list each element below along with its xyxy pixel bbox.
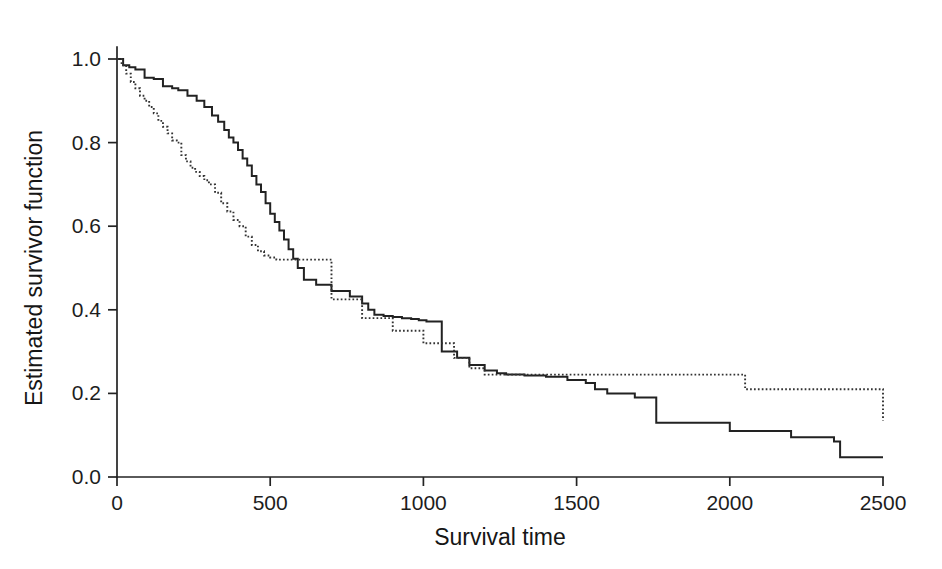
- y-tick-label: 0.6: [72, 214, 101, 237]
- curves-group: [117, 59, 883, 457]
- y-tick-label: 0.4: [72, 298, 102, 321]
- y-tick-label: 0.0: [72, 465, 101, 488]
- y-tick-label: 1.0: [72, 47, 101, 70]
- x-tick-label: 1500: [553, 491, 600, 514]
- x-axis-title: Survival time: [434, 524, 566, 550]
- axes-group: [117, 47, 883, 477]
- x-tick-label: 2500: [860, 491, 907, 514]
- dotted-curve: [117, 59, 883, 421]
- y-tick-label: 0.2: [72, 381, 101, 404]
- tick-labels-group: 0.00.20.40.60.81.005001000150020002500: [72, 47, 907, 514]
- x-tick-label: 0: [111, 491, 123, 514]
- y-axis-title: Estimated survivor function: [21, 130, 47, 406]
- y-tick-label: 0.8: [72, 131, 101, 154]
- x-tick-label: 500: [253, 491, 288, 514]
- x-tick-label: 1000: [400, 491, 447, 514]
- solid-curve: [117, 59, 883, 457]
- plot-canvas: 0.00.20.40.60.81.005001000150020002500 S…: [0, 0, 942, 569]
- survival-chart-figure: 0.00.20.40.60.81.005001000150020002500 S…: [0, 0, 942, 569]
- x-tick-label: 2000: [706, 491, 753, 514]
